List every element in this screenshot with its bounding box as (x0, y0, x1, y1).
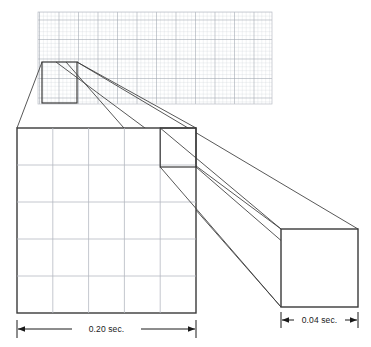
small-detail-box (281, 229, 358, 307)
small-box-measure-label: 0.04 sec. (302, 315, 337, 325)
grid-strip-fill (38, 12, 272, 104)
grid-strip (38, 12, 272, 104)
large-box-measure-label: 0.20 sec. (89, 324, 124, 334)
magnification-diagram: 0.20 sec. 0.04 sec. (0, 0, 371, 347)
diagram-canvas: 0.20 sec. 0.04 sec. (0, 0, 371, 347)
large-detail-box (17, 128, 196, 313)
small-detail-box-border (281, 229, 358, 307)
large-detail-box-border (17, 128, 196, 313)
